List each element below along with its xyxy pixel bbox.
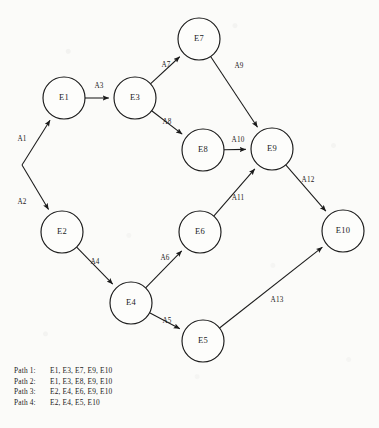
node-e2[interactable]: E2 xyxy=(41,211,83,253)
legend-path-sequence: E2, E4, E5, E10 xyxy=(50,398,224,409)
node-e10[interactable]: E10 xyxy=(322,210,364,252)
node-e1[interactable]: E1 xyxy=(43,77,85,119)
legend-path-sequence: E1, E3, E7, E9, E10 xyxy=(50,366,224,377)
edge-a13 xyxy=(220,247,323,328)
node-e4[interactable]: E4 xyxy=(110,282,152,324)
legend-path-name: Path 4: xyxy=(14,398,50,409)
node-e9[interactable]: E9 xyxy=(251,128,293,170)
legend-path-name: Path 1: xyxy=(14,366,50,377)
node-label-e8: E8 xyxy=(198,144,208,154)
node-e8[interactable]: E8 xyxy=(182,129,224,171)
legend-row: Path 1:E1, E3, E7, E9, E10 xyxy=(14,366,224,377)
diagram-page: E1E2E3E4E5E6E7E8E9E10 A1A2A3A4A5A6A7A8A9… xyxy=(0,0,379,428)
edge-label-a1: A1 xyxy=(17,135,26,143)
node-label-e3: E3 xyxy=(130,92,140,102)
edge-label-a2: A2 xyxy=(17,198,26,206)
edge-label-a13: A13 xyxy=(271,296,284,304)
node-label-e2: E2 xyxy=(57,226,67,236)
node-label-e5: E5 xyxy=(198,335,208,345)
node-label-e10: E10 xyxy=(336,225,350,235)
edge-label-a4: A4 xyxy=(90,258,99,266)
edge-label-a10: A10 xyxy=(232,136,245,144)
edge-label-a9: A9 xyxy=(234,62,243,70)
path-network-diagram: E1E2E3E4E5E6E7E8E9E10 A1A2A3A4A5A6A7A8A9… xyxy=(0,0,379,428)
legend-path-sequence: E1, E3, E8, E9, E10 xyxy=(50,377,224,388)
node-label-e1: E1 xyxy=(59,92,69,102)
legend-row: Path 2:E1, E3, E8, E9, E10 xyxy=(14,377,224,388)
edge-label-a5: A5 xyxy=(162,317,171,325)
edge-label-a11: A11 xyxy=(232,194,245,202)
edge-label-a7: A7 xyxy=(161,61,170,69)
node-label-e6: E6 xyxy=(195,226,205,236)
legend-path-name: Path 2: xyxy=(14,377,50,388)
path-legend: Path 1:E1, E3, E7, E9, E10Path 2:E1, E3,… xyxy=(14,366,224,408)
legend-row: Path 3:E2, E4, E6, E9, E10 xyxy=(14,387,224,398)
legend-row: Path 4:E2, E4, E5, E10 xyxy=(14,398,224,409)
edge-a11 xyxy=(214,169,255,216)
edge-label-a3: A3 xyxy=(94,82,103,90)
legend-path-sequence: E2, E4, E6, E9, E10 xyxy=(50,387,224,398)
node-e7[interactable]: E7 xyxy=(178,18,220,60)
edge-label-a6: A6 xyxy=(160,254,169,262)
node-label-e9: E9 xyxy=(267,143,277,153)
nodes-layer: E1E2E3E4E5E6E7E8E9E10 xyxy=(41,18,364,362)
node-label-e7: E7 xyxy=(194,33,204,43)
node-e3[interactable]: E3 xyxy=(114,77,156,119)
node-e6[interactable]: E6 xyxy=(179,211,221,253)
node-label-e4: E4 xyxy=(126,297,136,307)
legend-path-name: Path 3: xyxy=(14,387,50,398)
edge-a12 xyxy=(286,165,326,211)
edge-label-a8: A8 xyxy=(162,118,171,126)
node-e5[interactable]: E5 xyxy=(182,320,224,362)
edge-label-a12: A12 xyxy=(302,176,315,184)
